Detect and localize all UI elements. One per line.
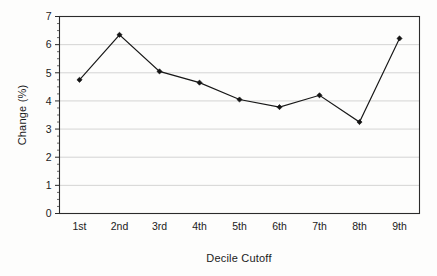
- y-axis-tick-label: 1: [46, 179, 52, 191]
- data-point-marker: [197, 80, 202, 85]
- y-axis-tick-labels-group: 01234567: [46, 10, 52, 219]
- y-axis-tick-label: 2: [46, 151, 52, 163]
- x-axis-tick-label: 9th: [392, 220, 407, 232]
- y-axis-tick-label: 3: [46, 123, 52, 135]
- x-axis-tick-label: 6th: [272, 220, 287, 232]
- data-point-markers-group: [77, 32, 402, 124]
- chart-figure: 01234567 1st2nd3rd4th5th6th7th8th9th Dec…: [0, 0, 437, 276]
- x-axis-title: Decile Cutoff: [206, 252, 272, 264]
- y-axis-ticks-group: [55, 17, 60, 214]
- plot-frame: [60, 17, 420, 214]
- data-series-line: [80, 35, 400, 122]
- x-axis-tick-label: 4th: [192, 220, 207, 232]
- y-axis-tick-label: 6: [46, 38, 52, 50]
- y-axis-tick-label: 4: [46, 95, 52, 107]
- data-point-marker: [397, 36, 402, 41]
- y-axis-title: Change (%): [16, 85, 28, 146]
- y-axis-tick-label: 0: [46, 207, 52, 219]
- x-axis-tick-label: 7th: [312, 220, 327, 232]
- x-axis-tick-label: 5th: [232, 220, 247, 232]
- line-chart-svg: 01234567 1st2nd3rd4th5th6th7th8th9th Dec…: [0, 0, 437, 276]
- x-axis-tick-label: 8th: [352, 220, 367, 232]
- x-axis-tick-label: 1st: [72, 220, 86, 232]
- y-axis-tick-label: 7: [46, 10, 52, 22]
- data-point-marker: [277, 105, 282, 110]
- y-axis-tick-label: 5: [46, 67, 52, 79]
- x-axis-tick-label: 2nd: [111, 220, 129, 232]
- x-axis-tick-label: 3rd: [152, 220, 167, 232]
- data-point-marker: [237, 97, 242, 102]
- x-axis-tick-labels-group: 1st2nd3rd4th5th6th7th8th9th: [72, 220, 406, 232]
